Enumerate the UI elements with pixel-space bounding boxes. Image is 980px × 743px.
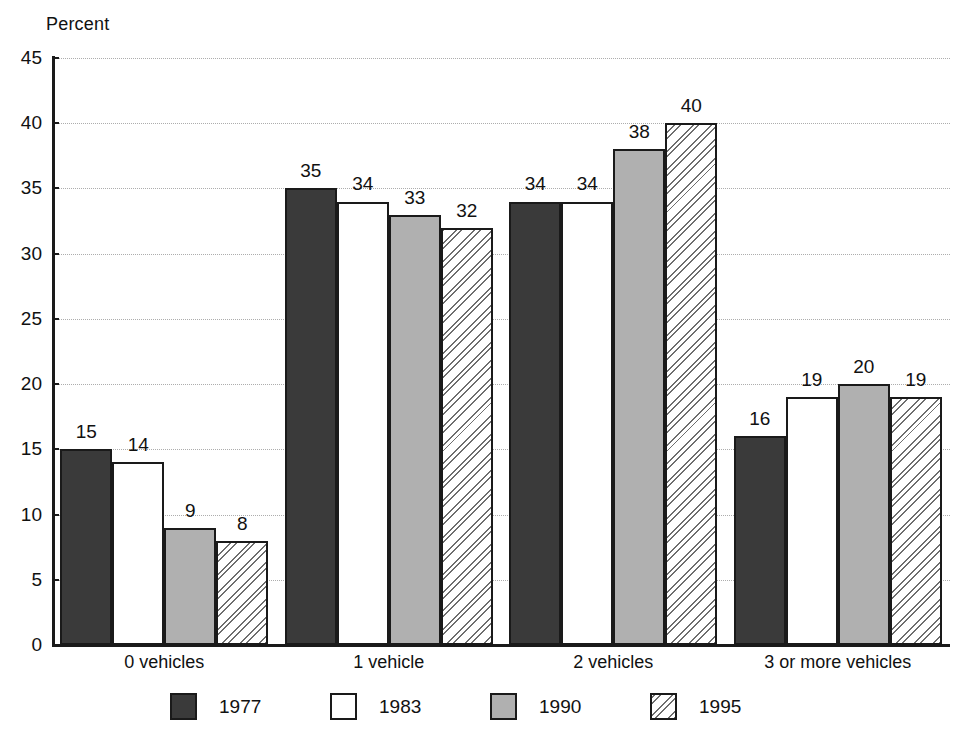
- legend-label: 1977: [219, 696, 261, 718]
- legend-label: 1990: [539, 696, 581, 718]
- bar-value-label: 20: [853, 356, 874, 378]
- category-label-0: 0 vehicles: [124, 652, 204, 673]
- legend-label: 1983: [379, 696, 421, 718]
- light-gray-swatch: [490, 693, 517, 720]
- category-label-3: 3 or more vehicles: [764, 652, 911, 673]
- bar-1990-1-vehicle: [389, 215, 441, 645]
- y-tick-label-20: 20: [2, 373, 42, 395]
- bar-1983-2-vehicles: [561, 202, 613, 646]
- legend: 1977198319901995: [0, 693, 980, 720]
- hatch-swatch: [650, 693, 677, 720]
- y-axis-title: Percent: [46, 14, 109, 35]
- bar-value-label: 38: [629, 121, 650, 143]
- bar-value-label: 32: [456, 200, 477, 222]
- white-swatch: [330, 693, 357, 720]
- bar-1990-0-vehicles: [164, 528, 216, 645]
- bar-value-label: 9: [185, 500, 196, 522]
- bar-1995-1-vehicle: [441, 228, 493, 645]
- bar-value-label: 33: [404, 187, 425, 209]
- bar-1977-0-vehicles: [60, 449, 112, 645]
- y-tick-label-25: 25: [2, 308, 42, 330]
- bar-value-label: 15: [76, 421, 97, 443]
- bar-value-label: 19: [801, 369, 822, 391]
- bar-value-label: 8: [237, 513, 248, 535]
- chart-page: Percent 051015202530354045 1514983534333…: [0, 0, 980, 743]
- bar-value-label: 35: [300, 160, 321, 182]
- bar-1995-0-vehicles: [216, 541, 268, 645]
- category-label-1: 1 vehicle: [353, 652, 424, 673]
- legend-item-1983[interactable]: 1983: [330, 693, 490, 720]
- bar-1983-3-or-more-vehicles: [786, 397, 838, 645]
- bar-1983-0-vehicles: [112, 462, 164, 645]
- y-tick-label-15: 15: [2, 438, 42, 460]
- bar-value-label: 19: [905, 369, 926, 391]
- y-tick-label-30: 30: [2, 243, 42, 265]
- bar-value-label: 34: [352, 173, 373, 195]
- bar-value-label: 34: [525, 173, 546, 195]
- y-tick-label-5: 5: [2, 569, 42, 591]
- bar-value-label: 16: [749, 408, 770, 430]
- y-tick-label-10: 10: [2, 504, 42, 526]
- y-tick-label-0: 0: [2, 634, 42, 656]
- y-tick-label-40: 40: [2, 112, 42, 134]
- y-tick-label-45: 45: [2, 47, 42, 69]
- bar-1977-3-or-more-vehicles: [734, 436, 786, 645]
- bar-1990-2-vehicles: [613, 149, 665, 645]
- category-label-2: 2 vehicles: [573, 652, 653, 673]
- bar-1977-2-vehicles: [509, 202, 561, 646]
- bar-value-label: 14: [128, 434, 149, 456]
- bar-1995-3-or-more-vehicles: [890, 397, 942, 645]
- y-tick-label-35: 35: [2, 177, 42, 199]
- bar-1977-1-vehicle: [285, 188, 337, 645]
- dark-gray-swatch: [170, 693, 197, 720]
- bar-1995-2-vehicles: [665, 123, 717, 645]
- bar-1990-3-or-more-vehicles: [838, 384, 890, 645]
- legend-item-1977[interactable]: 1977: [170, 693, 330, 720]
- bar-value-label: 34: [577, 173, 598, 195]
- legend-item-1990[interactable]: 1990: [490, 693, 650, 720]
- legend-label: 1995: [699, 696, 741, 718]
- legend-item-1995[interactable]: 1995: [650, 693, 810, 720]
- bar-1983-1-vehicle: [337, 202, 389, 646]
- bar-value-label: 40: [681, 95, 702, 117]
